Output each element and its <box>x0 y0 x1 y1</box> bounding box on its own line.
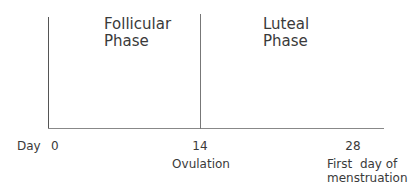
luteal-line2: Phase <box>263 33 309 50</box>
menstruation-line1: First day of <box>327 157 408 171</box>
tick-day-14: 14 <box>192 139 207 153</box>
menstruation-line2: menstruation <box>327 171 408 185</box>
luteal-phase-label: Luteal Phase <box>263 16 309 50</box>
ovulation-divider-line <box>200 14 201 129</box>
ovulation-label: Ovulation <box>172 157 230 171</box>
y-axis-line <box>48 17 49 129</box>
axis-label-day: Day <box>17 139 41 153</box>
luteal-line1: Luteal <box>263 16 309 33</box>
x-axis-line <box>48 128 384 129</box>
follicular-line1: Follicular <box>104 16 171 33</box>
follicular-phase-label: Follicular Phase <box>104 16 171 50</box>
first-day-menstruation-label: First day of menstruation <box>327 157 408 185</box>
tick-day-28: 28 <box>345 139 360 153</box>
tick-day-0: 0 <box>51 139 59 153</box>
follicular-line2: Phase <box>104 33 171 50</box>
